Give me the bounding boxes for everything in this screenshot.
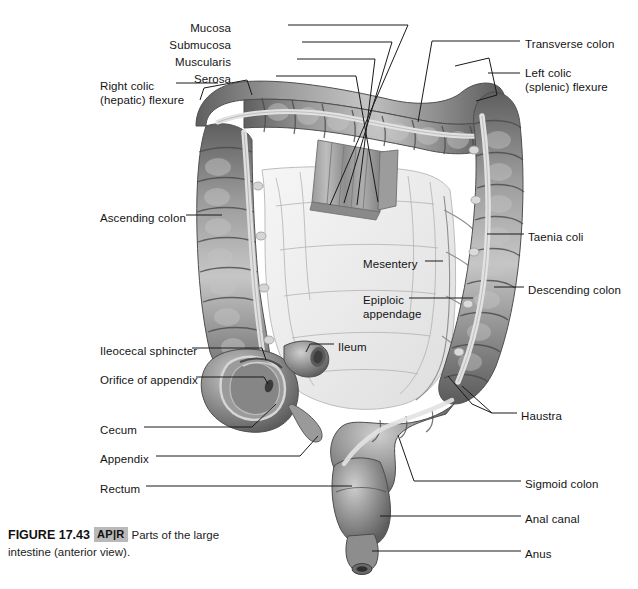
label-haustra: Haustra bbox=[521, 410, 562, 424]
label-right-colic-flexure-2: (hepatic) flexure bbox=[100, 94, 184, 108]
label-right-colic-flexure: Right colic bbox=[100, 80, 154, 94]
leader-appendix bbox=[156, 436, 318, 456]
label-transverse-colon: Transverse colon bbox=[525, 38, 614, 52]
apr-right: R bbox=[116, 528, 124, 540]
caption-line-1: Parts of the large bbox=[132, 529, 220, 541]
apr-left: AP bbox=[97, 528, 113, 540]
figure-number: FIGURE 17.43 bbox=[8, 528, 90, 542]
label-ileum: Ileum bbox=[338, 341, 367, 355]
label-taenia-coli: Taenia coli bbox=[528, 231, 583, 245]
label-anus: Anus bbox=[525, 548, 552, 562]
label-ileocecal-sphincter: Ileocecal sphincter bbox=[100, 345, 197, 359]
sigmoid-rectum-structure bbox=[331, 400, 454, 575]
caption-line-2: intestine (anterior view). bbox=[8, 544, 308, 560]
label-mesentery: Mesentery bbox=[363, 258, 418, 272]
label-rectum: Rectum bbox=[100, 483, 140, 497]
label-muscularis: Muscularis bbox=[131, 56, 231, 70]
label-left-colic-flexure: Left colic bbox=[525, 67, 571, 81]
label-epiploic-appendage-2: appendage bbox=[363, 308, 421, 322]
label-orifice-of-appendix: Orifice of appendix bbox=[100, 374, 198, 388]
label-mucosa: Mucosa bbox=[131, 22, 231, 36]
leader-sigmoid-colon bbox=[398, 435, 521, 481]
label-epiploic-appendage: Epiploic bbox=[363, 294, 404, 308]
apr-badge[interactable]: AP|R bbox=[94, 527, 128, 542]
label-cecum: Cecum bbox=[100, 424, 137, 438]
figure-caption: FIGURE 17.43AP|RParts of the large intes… bbox=[8, 527, 308, 560]
colon-wall-cutaway bbox=[310, 140, 398, 220]
label-appendix: Appendix bbox=[100, 453, 149, 467]
label-ascending-colon: Ascending colon bbox=[100, 212, 186, 226]
label-anal-canal: Anal canal bbox=[525, 513, 580, 527]
label-descending-colon: Descending colon bbox=[528, 284, 621, 298]
figure-root: Mucosa Submucosa Muscularis Serosa Trans… bbox=[0, 0, 638, 589]
label-left-colic-flexure-2: (splenic) flexure bbox=[525, 81, 608, 95]
label-submucosa: Submucosa bbox=[131, 39, 231, 53]
label-sigmoid-colon: Sigmoid colon bbox=[525, 478, 599, 492]
